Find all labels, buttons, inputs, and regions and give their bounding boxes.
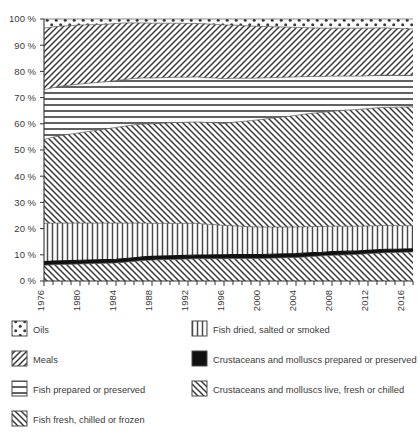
y-tick-label: 10 % [14,249,36,260]
x-tick-label: 1996 [215,290,226,311]
legend-label: Fish fresh, chilled or frozen [33,415,145,425]
legend-swatch-solid-black [192,351,207,366]
x-tick-label: 1984 [107,290,118,311]
legend-label: Crustaceans and molluscs live, fresh or … [213,385,404,395]
y-tick-label: 60 % [14,118,36,129]
y-tick-label: 0 % [20,275,37,286]
y-tick-label: 90 % [14,40,36,51]
plot-areas-group [44,19,413,281]
x-tick-label: 1988 [143,290,154,311]
legend-swatch-vertical-lines [192,321,207,336]
chart-svg: 0 %10 %20 %30 %40 %50 %60 %70 %80 %90 %1… [0,0,420,441]
x-tick-label: 1976 [35,290,46,311]
legend-swatch-dots [12,321,27,336]
x-tick-label: 2012 [359,290,370,311]
x-tick-label: 1980 [71,290,82,311]
x-tick-label: 2004 [287,290,298,311]
legend-label: Crustaceans and molluscs prepared or pre… [213,355,417,365]
y-tick-label: 80 % [14,66,36,77]
y-tick-label: 100 % [9,13,36,24]
x-tick-label: 2016 [395,290,406,311]
legend-label: Fish prepared or preserved [33,385,145,395]
stacked-area-chart: 0 %10 %20 %30 %40 %50 %60 %70 %80 %90 %1… [0,0,420,441]
x-tick-label: 2000 [251,290,262,311]
x-tick-label: 1992 [179,290,190,311]
legend-label: Meals [33,355,58,365]
legend-label: Oils [33,325,49,335]
y-tick-label: 30 % [14,197,36,208]
legend-swatch-diagonal-back [12,351,27,366]
y-tick-label: 20 % [14,223,36,234]
y-tick-label: 50 % [14,144,36,155]
legend-swatch-horizontal-lines [12,381,27,396]
y-tick-label: 40 % [14,171,36,182]
x-tick-label: 2008 [323,290,334,311]
y-tick-label: 70 % [14,92,36,103]
legend-label: Fish dried, salted or smoked [213,325,330,335]
legend-swatch-diagonal-forward [192,381,207,396]
legend-swatch-diagonal-forward [12,411,27,426]
